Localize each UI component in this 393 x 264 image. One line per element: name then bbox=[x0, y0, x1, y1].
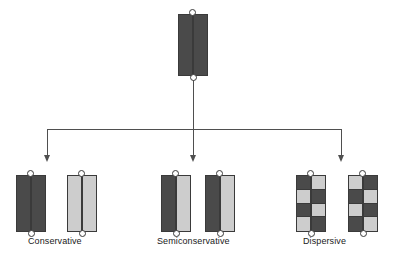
strand-segment-light bbox=[297, 217, 310, 231]
strand-segment-light bbox=[83, 176, 96, 231]
strand-segment-light bbox=[312, 204, 325, 218]
strand-segment-dark bbox=[349, 217, 362, 231]
parent-strand-left bbox=[178, 14, 193, 76]
dispersive-molecule-1 bbox=[296, 175, 326, 232]
conservative-molecule-2 bbox=[67, 175, 97, 232]
strand-segment-light bbox=[221, 176, 234, 231]
semiconservative-molecule-1 bbox=[161, 175, 191, 232]
strand-right bbox=[31, 175, 46, 232]
arrow-head-icon bbox=[338, 155, 344, 162]
connector-branch-right bbox=[341, 129, 342, 157]
connector-branch-middle bbox=[193, 129, 194, 157]
strand-left bbox=[348, 175, 363, 232]
parent-strand-right bbox=[193, 14, 208, 76]
strand-segment-dark bbox=[32, 176, 45, 231]
connector-stem bbox=[193, 80, 194, 130]
loop-icon bbox=[359, 170, 366, 177]
label-conservative: Conservative bbox=[28, 236, 82, 246]
strand-right bbox=[311, 175, 326, 232]
strand-right bbox=[82, 175, 97, 232]
loop-icon bbox=[189, 9, 196, 16]
strand-segment-light bbox=[364, 217, 377, 231]
strand-right bbox=[176, 175, 191, 232]
loop-icon bbox=[173, 230, 180, 237]
strand-segment-dark bbox=[297, 204, 310, 218]
strand-segment-light bbox=[349, 204, 362, 218]
strand-segment-light bbox=[68, 176, 81, 231]
label-dispersive: Dispersive bbox=[303, 236, 346, 246]
conservative-molecule-1 bbox=[16, 175, 46, 232]
strand-left bbox=[161, 175, 176, 232]
loop-icon bbox=[216, 170, 223, 177]
parental-dna-molecule bbox=[178, 14, 208, 76]
connector-branch-left bbox=[47, 129, 48, 157]
connector-crossbar bbox=[47, 129, 341, 130]
arrow-head-icon bbox=[44, 155, 50, 162]
strand-segment-dark bbox=[194, 15, 207, 75]
strand-segment-dark bbox=[17, 176, 30, 231]
loop-icon bbox=[78, 170, 85, 177]
strand-segment-dark bbox=[179, 15, 192, 75]
strand-segment-dark bbox=[364, 204, 377, 218]
loop-icon bbox=[27, 170, 34, 177]
loop-icon bbox=[360, 230, 367, 237]
strand-segment-light bbox=[364, 190, 377, 204]
loop-icon bbox=[190, 74, 197, 81]
strand-segment-dark bbox=[349, 190, 362, 204]
strand-segment-dark bbox=[312, 190, 325, 204]
arrow-head-icon bbox=[190, 155, 196, 162]
strand-right bbox=[220, 175, 235, 232]
strand-segment-light bbox=[177, 176, 190, 231]
strand-segment-dark bbox=[297, 176, 310, 190]
label-semiconservative: Semiconservative bbox=[157, 236, 230, 246]
loop-icon bbox=[307, 170, 314, 177]
strand-segment-dark bbox=[206, 176, 219, 231]
strand-left bbox=[16, 175, 31, 232]
loop-icon bbox=[308, 230, 315, 237]
loop-icon bbox=[79, 230, 86, 237]
strand-right bbox=[363, 175, 378, 232]
loop-icon bbox=[28, 230, 35, 237]
dispersive-molecule-2 bbox=[348, 175, 378, 232]
loop-icon bbox=[172, 170, 179, 177]
replication-models-diagram: Conservative Semiconservative Dispersive bbox=[0, 0, 393, 264]
strand-segment-dark bbox=[312, 217, 325, 231]
strand-segment-light bbox=[312, 176, 325, 190]
strand-left bbox=[296, 175, 311, 232]
semiconservative-molecule-2 bbox=[205, 175, 235, 232]
strand-left bbox=[205, 175, 220, 232]
strand-segment-dark bbox=[364, 176, 377, 190]
loop-icon bbox=[217, 230, 224, 237]
strand-left bbox=[67, 175, 82, 232]
strand-segment-light bbox=[349, 176, 362, 190]
strand-segment-dark bbox=[162, 176, 175, 231]
strand-segment-light bbox=[297, 190, 310, 204]
